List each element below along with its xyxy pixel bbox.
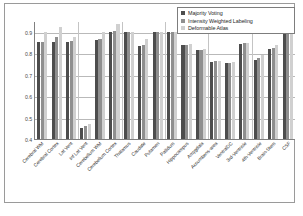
- bar: [88, 124, 91, 139]
- bar-group: [122, 22, 136, 139]
- bar-group: [266, 22, 280, 139]
- legend-item-label: Majority Voting: [188, 10, 223, 16]
- bar-group: [252, 22, 266, 139]
- y-axis-tick-label: 0.7: [25, 73, 32, 79]
- bar-group: [78, 22, 92, 139]
- x-axis-tick-label: CSF: [281, 141, 291, 151]
- bar: [44, 32, 47, 139]
- bar-group: [136, 22, 150, 139]
- bar-group: [151, 22, 165, 139]
- bar-group: [107, 22, 121, 139]
- legend-item[interactable]: Deformable Atlas: [181, 25, 291, 31]
- plot-area: 0.40.50.60.70.80.9: [34, 22, 295, 140]
- bar: [160, 32, 163, 139]
- bar-group: [208, 22, 222, 139]
- bar-group: [35, 22, 49, 139]
- y-axis-tick-label: 0.6: [25, 94, 32, 100]
- y-axis-tick-label: 0.8: [25, 51, 32, 57]
- chart-frame: 0.40.50.60.70.80.9 Cerebral WMCerebral C…: [4, 3, 295, 203]
- bar: [246, 43, 249, 139]
- legend-item-label: Deformable Atlas: [188, 25, 228, 31]
- bar-group: [280, 22, 294, 139]
- legend-item[interactable]: Intensity Weighted Labeling: [181, 18, 291, 24]
- bar: [59, 27, 62, 139]
- bar: [261, 55, 264, 139]
- y-axis-tick-label: 0.5: [25, 116, 32, 122]
- legend-swatch-icon: [181, 11, 185, 15]
- bar: [131, 32, 134, 139]
- bar: [145, 39, 148, 139]
- bar-group: [93, 22, 107, 139]
- legend-swatch-icon: [181, 19, 185, 23]
- bar: [189, 44, 192, 139]
- bar: [116, 24, 119, 139]
- bar: [290, 26, 293, 139]
- chart-legend: Majority VotingIntensity Weighted Labeli…: [177, 7, 295, 34]
- bar: [102, 32, 105, 139]
- legend-item[interactable]: Majority Voting: [181, 10, 291, 16]
- bar: [232, 62, 235, 139]
- legend-item-label: Intensity Weighted Labeling: [188, 18, 253, 24]
- bar-group: [223, 22, 237, 139]
- bar: [174, 32, 177, 139]
- bar-chart: 0.40.50.60.70.80.9 Cerebral WMCerebral C…: [0, 0, 303, 216]
- bar-group: [237, 22, 251, 139]
- bar-group: [49, 22, 63, 139]
- bar-group: [165, 22, 179, 139]
- bar-group: [179, 22, 193, 139]
- y-axis-tick-label: 0.4: [25, 137, 32, 143]
- y-axis-tick-label: 0.9: [25, 30, 32, 36]
- legend-swatch-icon: [181, 26, 185, 30]
- bars-layer: [35, 22, 295, 139]
- x-axis-tick-label: Cerebellum Cortex: [86, 141, 117, 172]
- bar: [203, 49, 206, 139]
- bar: [218, 61, 221, 139]
- bar-group: [194, 22, 208, 139]
- bar: [275, 45, 278, 139]
- bar-group: [64, 22, 78, 139]
- bar: [73, 37, 76, 139]
